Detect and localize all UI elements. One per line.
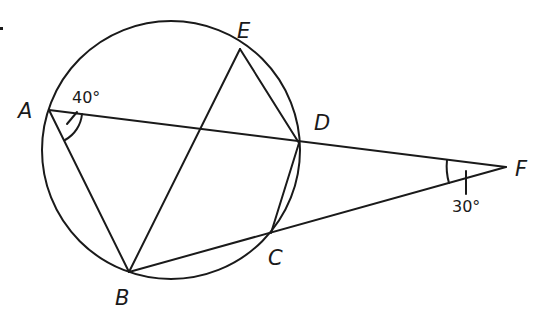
label-E: E: [237, 19, 251, 43]
segment-ED: [240, 49, 299, 143]
angle-label-A: 40°: [72, 88, 100, 107]
segment-BE: [129, 49, 240, 272]
circle: [42, 21, 300, 279]
label-A: A: [16, 99, 32, 123]
diagram-canvas: A E D F C B 40° 30°: [0, 0, 555, 319]
label-C: C: [268, 246, 283, 270]
segment-AB: [49, 110, 129, 272]
segment-AF: [49, 110, 506, 167]
label-B: B: [115, 286, 129, 310]
angle-arc-A: [65, 114, 82, 140]
angle-label-F: 30°: [452, 197, 480, 216]
label-F: F: [515, 157, 528, 181]
geometry-diagram: A E D F C B 40° 30°: [0, 0, 555, 319]
angle-arc-F: [447, 160, 449, 183]
stray-mark: [0, 27, 3, 30]
label-D: D: [314, 111, 330, 135]
